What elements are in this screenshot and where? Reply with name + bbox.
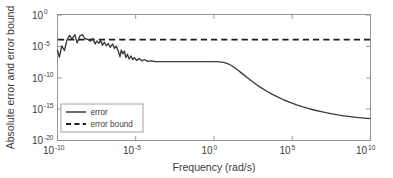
x-ticklabel-2-base: 10 (201, 145, 213, 156)
y-ticklabel-1-exp: -5 (44, 40, 50, 47)
x-ticklabel-3-base: 10 (279, 145, 291, 156)
x-ticklabel-1-exp: -5 (135, 144, 141, 151)
x-ticklabel-0-exp: -10 (55, 144, 65, 151)
y-ticklabel-4-base: 10 (32, 135, 44, 146)
y-ticklabel-2-base: 10 (32, 73, 44, 84)
y-ticklabel-0-exp: 0 (44, 8, 48, 15)
y-ticklabel-4-exp: -20 (44, 134, 54, 141)
x-axis-title: Frequency (rad/s) (173, 161, 256, 173)
x-ticklabel-3-exp: 5 (292, 144, 296, 151)
x-ticklabel-2-exp: 0 (214, 144, 218, 151)
legend-label-error-bound: error bound (91, 120, 134, 129)
x-axis-tick-labels: 10 -10 10 -5 10 0 10 5 10 10 (43, 144, 376, 157)
figure-container: error error bound 10 0 10 -5 10 -10 10 -… (0, 0, 393, 178)
y-ticklabel-0-base: 10 (32, 10, 44, 21)
chart-legend[interactable]: error error bound (61, 104, 143, 132)
y-ticklabel-3-base: 10 (32, 104, 44, 115)
y-ticklabel-2-exp: -10 (44, 71, 54, 78)
y-axis-tick-labels: 10 0 10 -5 10 -10 10 -15 10 -20 (32, 8, 54, 146)
x-ticklabel-4-exp: 10 (368, 144, 376, 151)
legend-label-error: error (91, 108, 109, 117)
y-axis-title: Absolute error and error bound (4, 6, 16, 150)
y-ticklabel-1-base: 10 (32, 41, 44, 52)
chart-canvas: error error bound 10 0 10 -5 10 -10 10 -… (0, 0, 393, 178)
x-ticklabel-0-base: 10 (43, 145, 55, 156)
x-ticklabel-1-base: 10 (123, 145, 135, 156)
x-ticklabel-4-base: 10 (356, 145, 368, 156)
y-ticklabel-3-exp: -15 (44, 102, 54, 109)
